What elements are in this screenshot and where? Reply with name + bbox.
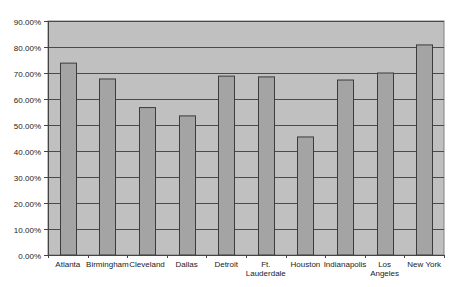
x-tick-label-line: Dallas [175,260,197,269]
y-tick-label: 0.00% [18,252,41,261]
x-tick-label: New York [407,260,442,269]
x-tick-label-line: Indianapolis [324,260,367,269]
x-tick-label-line: New York [407,260,442,269]
bar-birmingham [100,79,116,255]
y-tick-label: 10.00% [14,226,41,235]
y-tick-label: 60.00% [14,96,41,105]
x-tick-label: Atlanta [55,260,80,269]
x-tick-label: Birmingham [86,260,129,269]
x-tick-label-line: Houston [291,260,321,269]
y-tick-label: 80.00% [14,44,41,53]
bar-atlanta [61,63,77,255]
x-tick-label-line: Atlanta [55,260,80,269]
bar-ft-lauderdale [259,77,275,255]
y-tick-label: 70.00% [14,70,41,79]
y-axis: 0.00%10.00%20.00%30.00%40.00%50.00%60.00… [14,18,49,261]
x-tick-label-line: Los [378,260,391,269]
x-tick-label-line: Detroit [214,260,238,269]
x-tick-label: Dallas [175,260,197,269]
bar-detroit [219,76,235,255]
x-tick-label: Ft.Lauderdale [246,260,287,278]
x-tick-label-line: Ft. [261,260,270,269]
bar-dallas [180,116,196,255]
x-tick-label: Detroit [214,260,238,269]
bar-chart: 0.00%10.00%20.00%30.00%40.00%50.00%60.00… [0,0,457,287]
y-tick-label: 20.00% [14,200,41,209]
x-axis: AtlantaBirminghamClevelandDallasDetroitF… [48,255,445,278]
bar-new-york [417,45,433,255]
y-tick-label: 90.00% [14,18,41,27]
y-tick-label: 50.00% [14,122,41,131]
bar-indianapolis [338,80,354,255]
x-tick-label-line: Angeles [370,269,399,278]
y-tick-label: 40.00% [14,148,41,157]
x-tick-label: Indianapolis [324,260,367,269]
x-tick-label: LosAngeles [370,260,399,278]
bar-cleveland [140,108,156,255]
x-tick-label-line: Lauderdale [246,269,287,278]
bar-houston [298,137,314,255]
x-tick-label-line: Cleveland [129,260,165,269]
x-tick-label-line: Birmingham [86,260,129,269]
bar-los-angeles [378,73,394,255]
x-tick-label: Houston [291,260,321,269]
x-tick-label: Cleveland [129,260,165,269]
y-tick-label: 30.00% [14,174,41,183]
